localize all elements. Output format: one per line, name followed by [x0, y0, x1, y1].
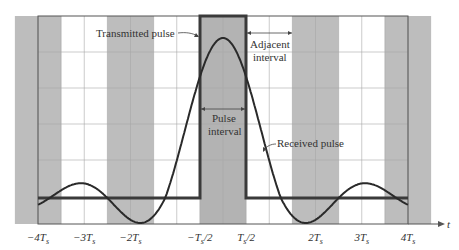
- adjacent-interval-label-line1: Adjacent: [250, 38, 290, 50]
- received-pulse-label: Received pulse: [277, 137, 344, 149]
- adjacent-interval-label-line2: interval: [253, 51, 287, 63]
- pulse-interval-label-line2: interval: [208, 125, 242, 137]
- pulse-interval-label-line1: Pulse: [212, 112, 236, 124]
- transmitted-pulse-label: Transmitted pulse: [96, 27, 175, 39]
- pulse-isi-diagram: t −4Ts−3Ts−2Ts−Ts/2Ts/22Ts3Ts4Ts Transmi…: [0, 0, 459, 250]
